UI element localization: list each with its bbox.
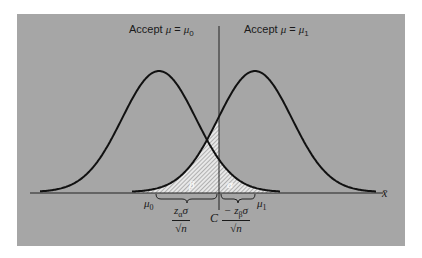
x-bar-axis-label: x̄ (382, 186, 387, 201)
right-brace (221, 194, 255, 203)
critical-value-label: C (210, 211, 218, 226)
shaded-error-regions (132, 117, 280, 193)
right-brace-formula: − zβσ √n (222, 204, 250, 234)
accept-null-label: Accept μ = μ0 (129, 23, 194, 38)
accept-alternative-label: Accept μ = μ1 (244, 23, 309, 38)
beta-label: β (189, 178, 194, 190)
alternative-distribution-curve (132, 71, 376, 192)
left-brace-formula: zασ √n (172, 204, 190, 234)
alpha-label: α (227, 178, 233, 190)
null-distribution-curve (40, 71, 280, 191)
mu0-tick-label: μ0 (144, 197, 154, 212)
left-brace (156, 194, 217, 203)
mu1-tick-label: μ1 (257, 197, 267, 212)
